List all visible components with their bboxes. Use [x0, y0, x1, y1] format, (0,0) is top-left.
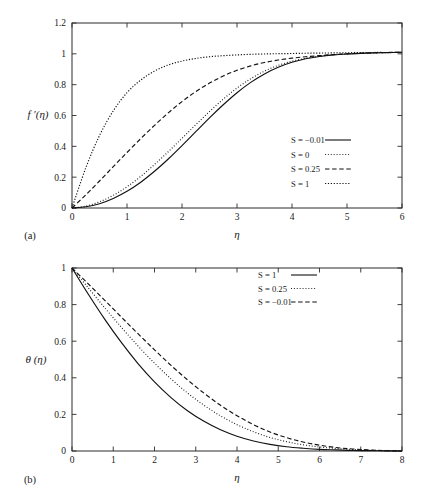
x-tick-label: 1	[125, 212, 130, 222]
x-axis-title: η	[234, 471, 239, 483]
x-tick-label: 6	[317, 455, 322, 465]
curve-dashed	[72, 52, 402, 208]
legend-label: S = 0	[291, 150, 309, 160]
legend-label: S = 0.25	[258, 284, 287, 294]
x-tick-label: 6	[400, 212, 405, 222]
curve-solid	[72, 268, 402, 451]
x-tick-label: 5	[276, 455, 281, 465]
y-tick-label: 0	[61, 203, 66, 213]
y-axis-title: θ (η)	[26, 353, 47, 366]
plot-a-canvas: 012345600.20.40.60.811.2ηf ′(η)(a)S = −0…	[0, 0, 428, 251]
x-tick-label: 0	[70, 455, 75, 465]
y-tick-label: 0.4	[54, 142, 66, 152]
y-tick-label: 0.6	[54, 337, 66, 347]
figure-container: 012345600.20.40.60.811.2ηf ′(η)(a)S = −0…	[0, 0, 428, 502]
x-tick-label: 5	[345, 212, 350, 222]
chart-panel-b: 01234567800.20.40.60.81ηθ (η)(b)S = 1S =…	[0, 251, 428, 502]
x-tick-label: 1	[111, 455, 116, 465]
x-tick-label: 4	[235, 455, 240, 465]
y-tick-label: 1.2	[54, 18, 66, 28]
legend-label: S = −0.01	[291, 135, 325, 145]
y-tick-label: 0.2	[54, 173, 66, 183]
legend-label: S = 1	[258, 270, 276, 280]
x-tick-label: 2	[152, 455, 157, 465]
x-tick-label: 4	[290, 212, 295, 222]
curve-solid	[72, 52, 402, 208]
y-axis-title: f ′(η)	[28, 108, 49, 121]
y-tick-label: 0	[61, 446, 66, 456]
legend-label: S = 0.25	[291, 164, 320, 174]
curve-dashed	[72, 268, 402, 451]
y-tick-label: 0.6	[54, 111, 66, 121]
legend-label: S = 1	[291, 179, 309, 189]
y-tick-label: 0.4	[54, 373, 66, 383]
y-tick-label: 0.2	[54, 410, 66, 420]
curve-dotted	[72, 52, 402, 208]
y-tick-label: 1	[61, 49, 66, 59]
legend-label: S = −0.01	[258, 297, 292, 307]
x-tick-label: 3	[235, 212, 240, 222]
y-tick-label: 0.8	[54, 300, 66, 310]
x-tick-label: 2	[180, 212, 185, 222]
x-tick-label: 3	[193, 455, 198, 465]
x-axis-title: η	[234, 228, 239, 240]
y-tick-label: 0.8	[54, 80, 66, 90]
y-tick-label: 1	[61, 263, 66, 273]
panel-tag: (a)	[24, 230, 36, 242]
x-tick-label: 7	[358, 455, 363, 465]
x-tick-label: 8	[400, 455, 405, 465]
chart-panel-a: 012345600.20.40.60.811.2ηf ′(η)(a)S = −0…	[0, 0, 428, 251]
x-tick-label: 0	[70, 212, 75, 222]
plot-b-canvas: 01234567800.20.40.60.81ηθ (η)(b)S = 1S =…	[0, 251, 428, 502]
curve-dotted	[72, 268, 402, 451]
curve-dashdot	[72, 52, 402, 208]
panel-tag: (b)	[24, 474, 37, 486]
